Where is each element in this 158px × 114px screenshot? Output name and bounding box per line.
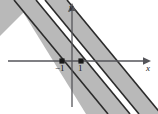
x-axis-label: x (146, 64, 150, 73)
coordinate-plane-svg (0, 0, 158, 114)
y-axis-label: y (69, 3, 73, 12)
graph-figure: y x −1 1 (0, 0, 158, 114)
x-tick-label-negative-one: −1 (55, 64, 65, 73)
x-tick-label-one: 1 (78, 64, 83, 73)
